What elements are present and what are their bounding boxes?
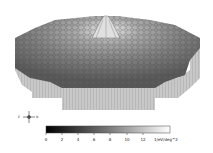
- compass-label-e: E: [18, 115, 20, 119]
- colorbar-tick-10: 10: [124, 137, 129, 142]
- colorbar-tick-0: 0: [45, 137, 48, 142]
- colorbar: [46, 126, 170, 135]
- colorbar-tick-8: 8: [109, 137, 112, 142]
- colorbar-tick-4: 4: [77, 137, 80, 142]
- compass-icon: [23, 111, 35, 123]
- colorbar-unit-label: 1/eV/deg^2: [154, 137, 178, 142]
- colorbar-tick-2: 2: [61, 137, 64, 142]
- plot-surface: [15, 16, 200, 88]
- colorbar-tick-6: 6: [93, 137, 96, 142]
- colorbar-tick-12: 12: [140, 137, 145, 142]
- compass-label-n: N: [36, 115, 38, 119]
- hexagonal-3d-surface-plot: [0, 0, 213, 153]
